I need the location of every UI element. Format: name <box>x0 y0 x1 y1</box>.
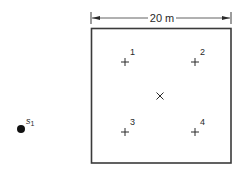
receiver-2: 2 <box>191 47 205 66</box>
receiver-label: 2 <box>200 47 205 57</box>
area-boundary <box>92 29 232 164</box>
arrowhead-left-icon <box>92 16 100 20</box>
center-cross-icon <box>157 93 164 100</box>
receiver-4: 4 <box>191 117 205 136</box>
source-label: s1 <box>26 116 35 127</box>
plus-marker-icon <box>121 128 129 136</box>
receiver-1: 1 <box>121 47 135 66</box>
receiver-3: 3 <box>121 117 135 136</box>
dimension-label: 20 m <box>150 12 174 24</box>
diagram-canvas: 20 m 1 2 3 4 s1 <box>0 0 243 174</box>
source-dot-icon <box>17 125 25 133</box>
source-s1: s1 <box>17 116 35 133</box>
receiver-label: 1 <box>130 47 135 57</box>
receiver-label: 4 <box>200 117 205 127</box>
plus-marker-icon <box>191 128 199 136</box>
arrowhead-right-icon <box>222 16 230 20</box>
plus-marker-icon <box>121 58 129 66</box>
plus-marker-icon <box>191 58 199 66</box>
dimension-indicator: 20 m <box>91 12 231 24</box>
receiver-label: 3 <box>130 117 135 127</box>
